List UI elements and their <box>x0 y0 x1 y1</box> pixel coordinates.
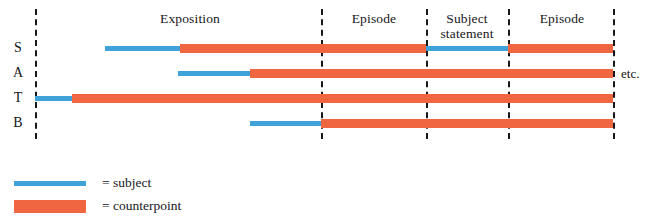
timeline-segment-a-subject-0 <box>178 71 250 76</box>
timeline-segment-s-counterpoint-3 <box>508 44 613 53</box>
legend-subject-swatch <box>14 181 86 186</box>
timeline-segment-s-counterpoint-1 <box>180 44 426 53</box>
section-label-episode-1: Episode <box>330 11 418 26</box>
legend-counterpoint-swatch <box>14 200 86 213</box>
timeline-segment-b-subject-0 <box>250 121 321 126</box>
voice-label-soprano: S <box>10 41 26 55</box>
etc-label: etc. <box>621 67 639 80</box>
section-divider-5 <box>613 9 615 139</box>
timeline-segment-b-counterpoint-1 <box>321 119 613 128</box>
section-label-exposition: Exposition <box>130 11 250 26</box>
voice-label-bass: B <box>10 116 26 130</box>
legend-subject-label: = subject <box>102 176 151 190</box>
voice-label-tenor: T <box>10 91 26 105</box>
section-divider-1 <box>35 9 37 139</box>
timeline-segment-t-counterpoint-1 <box>72 94 613 103</box>
fugue-structure-diagram: Exposition Episode Subject statement Epi… <box>0 0 649 224</box>
timeline-segment-s-subject-2 <box>426 46 508 51</box>
legend-item-counterpoint: = counterpoint <box>14 199 181 213</box>
section-label-episode-2: Episode <box>518 11 606 26</box>
timeline-segment-a-counterpoint-1 <box>250 69 613 78</box>
legend-item-subject: = subject <box>14 176 151 190</box>
section-label-subject-statement: Subject statement <box>428 11 506 41</box>
legend-counterpoint-label: = counterpoint <box>102 199 181 213</box>
timeline-segment-t-subject-0 <box>35 96 72 101</box>
timeline-segment-s-subject-0 <box>105 46 180 51</box>
voice-label-alto: A <box>10 66 26 80</box>
